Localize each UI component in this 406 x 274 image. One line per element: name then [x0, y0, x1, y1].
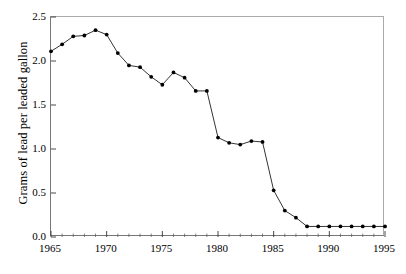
data-point: [94, 28, 98, 32]
data-point: [238, 143, 242, 147]
data-point: [216, 136, 220, 140]
data-point: [372, 225, 376, 229]
data-point: [127, 64, 131, 68]
data-point: [60, 42, 64, 46]
data-point: [383, 225, 387, 229]
y-tick-label: 2.5: [20, 11, 46, 22]
data-markers: [49, 28, 387, 228]
chart-figure: Grams of lead per leaded gallon 0.00.51.…: [0, 0, 406, 274]
y-tick-label: 1.0: [20, 143, 46, 154]
data-point: [105, 33, 109, 37]
data-point: [250, 139, 254, 143]
data-point: [272, 188, 276, 192]
data-point: [350, 225, 354, 229]
data-point: [205, 89, 209, 93]
data-point: [160, 83, 164, 87]
x-tick-label: 1970: [86, 242, 126, 254]
x-tick-label: 1965: [30, 242, 70, 254]
data-point: [49, 49, 53, 53]
y-axis-tick-labels: 0.00.51.01.52.02.5: [16, 0, 46, 274]
data-point: [305, 225, 309, 229]
x-axis-tick-labels: 1965197019751980198519901995: [0, 242, 406, 258]
y-tick-label: 0.0: [20, 231, 46, 242]
data-point: [149, 75, 153, 79]
x-axis-major-ticks: [51, 231, 385, 237]
data-point: [294, 216, 298, 220]
data-point: [172, 71, 176, 75]
plot-area: [50, 16, 384, 236]
data-point: [227, 141, 231, 145]
x-tick-label: 1975: [141, 242, 181, 254]
x-tick-label: 1990: [308, 242, 348, 254]
data-point: [361, 225, 365, 229]
data-point: [261, 140, 265, 144]
data-point: [116, 51, 120, 55]
data-point: [283, 209, 287, 213]
data-point: [83, 34, 87, 38]
data-point: [138, 65, 142, 69]
data-point: [194, 89, 198, 93]
data-point: [316, 225, 320, 229]
data-point: [71, 34, 75, 38]
x-tick-label: 1995: [364, 242, 404, 254]
data-point: [327, 225, 331, 229]
y-tick-label: 1.5: [20, 99, 46, 110]
data-line: [51, 30, 385, 226]
data-point: [339, 225, 343, 229]
data-point: [183, 76, 187, 80]
y-tick-label: 0.5: [20, 187, 46, 198]
x-tick-label: 1985: [253, 242, 293, 254]
series-canvas: [51, 17, 385, 237]
y-tick-label: 2.0: [20, 55, 46, 66]
x-tick-label: 1980: [197, 242, 237, 254]
